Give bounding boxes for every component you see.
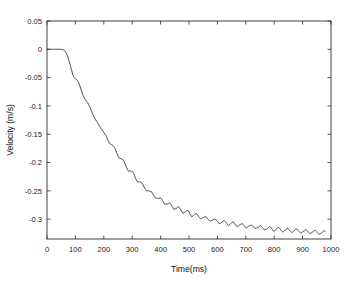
y-tick-label: -0.05 bbox=[25, 73, 42, 82]
x-tick-label: 1000 bbox=[323, 245, 340, 254]
y-tick-label: 0.05 bbox=[27, 17, 42, 26]
y-tick-label: -0.1 bbox=[29, 102, 42, 111]
x-tick-label: 200 bbox=[97, 245, 110, 254]
y-axis-title: Velocity (m/s) bbox=[5, 104, 15, 156]
x-tick-label: 700 bbox=[239, 245, 252, 254]
x-tick-label: 0 bbox=[45, 245, 49, 254]
y-tick-label: 0 bbox=[38, 45, 42, 54]
y-tick-label: -0.3 bbox=[29, 215, 42, 224]
chart-figure: 01002003004005006007008009001000 0.050-0… bbox=[0, 0, 353, 285]
figure-background bbox=[0, 0, 353, 285]
x-tick-label: 800 bbox=[268, 245, 281, 254]
y-tick-label: -0.2 bbox=[29, 158, 42, 167]
x-axis-title: Time(ms) bbox=[171, 264, 207, 274]
x-tick-label: 400 bbox=[154, 245, 167, 254]
x-tick-label: 900 bbox=[296, 245, 309, 254]
velocity-time-line-chart: 01002003004005006007008009001000 0.050-0… bbox=[0, 0, 353, 285]
x-tick-label: 600 bbox=[211, 245, 224, 254]
y-tick-label: -0.15 bbox=[25, 130, 42, 139]
x-tick-label: 500 bbox=[183, 245, 196, 254]
x-tick-label: 300 bbox=[126, 245, 139, 254]
y-tick-label: -0.25 bbox=[25, 187, 42, 196]
x-tick-label: 100 bbox=[69, 245, 82, 254]
